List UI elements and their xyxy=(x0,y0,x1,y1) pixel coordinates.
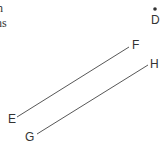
label-d: D xyxy=(151,14,160,26)
label-g: G xyxy=(25,131,34,143)
label-f: F xyxy=(132,39,139,51)
label-h: H xyxy=(150,58,159,70)
label-e: E xyxy=(8,113,16,125)
segment-gh xyxy=(37,65,148,134)
point-d-dot xyxy=(153,7,157,11)
segment-ef xyxy=(17,47,129,117)
